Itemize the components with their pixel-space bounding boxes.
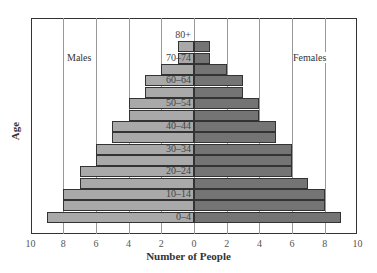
male-bar — [129, 110, 194, 121]
female-bar — [194, 75, 243, 86]
female-bar — [194, 189, 325, 200]
y-axis-label: Age — [9, 122, 21, 140]
female-bar — [194, 110, 259, 121]
male-bar — [80, 178, 194, 189]
female-bar — [194, 98, 259, 109]
female-bar — [194, 41, 210, 52]
age-label: 40–44 — [151, 120, 191, 131]
age-label: 10–14 — [151, 188, 191, 199]
female-bar — [194, 87, 243, 98]
age-label: 0–4 — [151, 211, 191, 222]
male-bar — [96, 155, 194, 166]
x-tick: 4 — [119, 238, 139, 249]
male-bar — [178, 41, 194, 52]
female-bar — [194, 200, 325, 211]
female-bar — [194, 166, 292, 177]
x-tick: 10 — [348, 238, 368, 249]
x-tick: 4 — [249, 238, 269, 249]
male-bar — [63, 200, 194, 211]
male-bar — [112, 132, 194, 143]
female-bar — [194, 132, 276, 143]
x-tick: 0 — [184, 238, 204, 249]
male-bar — [145, 87, 194, 98]
male-bar — [161, 64, 194, 75]
female-bar — [194, 121, 276, 132]
x-tick: 6 — [86, 238, 106, 249]
female-bar — [194, 155, 292, 166]
x-tick: 6 — [282, 238, 302, 249]
gridline — [325, 18, 326, 234]
female-bar — [194, 144, 292, 155]
x-tick: 8 — [53, 238, 73, 249]
x-tick: 2 — [217, 238, 237, 249]
x-axis-label: Number of People — [0, 250, 377, 262]
females-label: Females — [293, 52, 326, 63]
x-tick: 10 — [21, 238, 41, 249]
age-label: 20–24 — [151, 165, 191, 176]
age-label: 80+ — [151, 29, 191, 40]
female-bar — [194, 64, 227, 75]
female-bar — [194, 53, 210, 64]
female-bar — [194, 212, 341, 223]
x-tick: 2 — [151, 238, 171, 249]
age-label: 50–54 — [151, 97, 191, 108]
female-bar — [194, 178, 308, 189]
age-label: 60–64 — [151, 74, 191, 85]
age-label: 70–74 — [151, 52, 191, 63]
age-label: 30–34 — [151, 143, 191, 154]
x-tick: 8 — [315, 238, 335, 249]
males-label: Males — [67, 52, 91, 63]
